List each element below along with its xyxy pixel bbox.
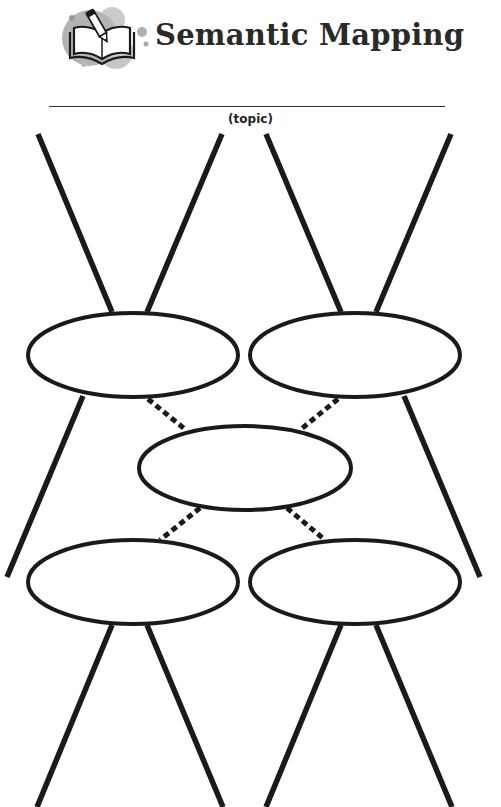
dashed-connector [160,508,200,540]
concept-node-top-left[interactable] [28,313,238,397]
concept-node-bottom-left[interactable] [28,540,238,624]
dashed-connector [148,399,186,430]
dashed-connector [300,399,338,430]
concept-node-center[interactable] [139,426,351,510]
detail-line [266,134,341,312]
concept-node-top-right[interactable] [250,313,460,397]
semantic-map-diagram [0,0,501,807]
detail-line [266,625,341,807]
detail-line [147,134,222,312]
detail-line [38,134,112,312]
detail-line [376,625,452,807]
concept-nodes [28,313,460,624]
detail-line [147,625,223,807]
concept-node-bottom-right[interactable] [250,540,460,624]
detail-line [376,134,451,312]
detail-line [37,625,112,807]
dashed-connector [287,508,325,540]
